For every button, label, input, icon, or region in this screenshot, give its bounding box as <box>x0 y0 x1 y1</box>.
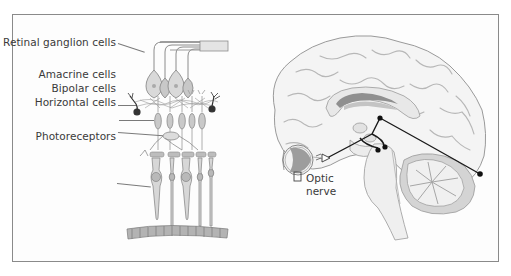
brain-illustration <box>0 0 511 276</box>
label-optic-nerve: Optic nerve <box>306 172 336 198</box>
optic-label-line2: nerve <box>306 185 336 198</box>
optic-label-line1: Optic <box>306 172 336 185</box>
eye <box>283 145 314 175</box>
